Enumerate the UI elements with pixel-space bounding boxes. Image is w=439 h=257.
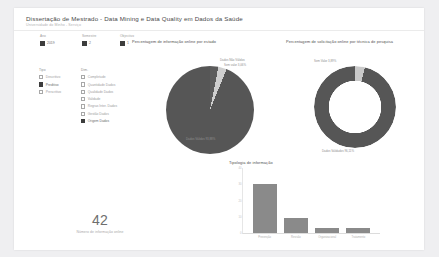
slicer-semestre-title: Semestre [82,34,96,38]
filter-tipo-item-label: Prescritivo [46,90,61,94]
donut-label-sem-valor: Sem Valor 3,89% [314,59,336,63]
checkbox-icon[interactable] [81,104,85,108]
kpi-caption: Número de informação online [40,230,160,234]
report-canvas: Dissertação de Mestrado - Data Mining e … [0,0,439,257]
filter-dimensao-item[interactable]: Qualidade Dados [81,90,117,94]
slicer-objectivo-title: Objectivo [120,34,134,38]
pie-label-sem-valor: Sem valor 3,06% [224,63,246,67]
page-title: Dissertação de Mestrado - Data Mining e … [26,15,243,22]
checkbox-icon[interactable] [39,82,43,86]
donut-label-dados-validados: Dados Validados 96,11% [322,149,354,153]
filter-dimensao-title: Dim. [81,68,117,72]
filter-tipo-item-label: Descritivo [46,75,60,79]
filter-dimensao-item-label: Qualidade Dados [88,90,113,94]
header-divider [14,30,424,31]
slicer-ano[interactable]: Ano 2019 [40,34,55,46]
bar-rect [253,184,277,233]
bar-rect [346,228,370,233]
bar-ytick: 20 [239,199,242,202]
filter-dimensao-item[interactable]: Quantidade Dados [81,82,117,86]
bar-rect [284,218,308,233]
bar-ytick: 40 [239,167,242,170]
bar-chart-title: Tipologia de informação [229,160,273,165]
bar-rect [315,228,339,233]
pie-label-dados-nao-validos: Dados Não Válidos [220,58,245,62]
slicer-semestre-checkbox[interactable] [82,41,87,46]
filter-dimensao-item[interactable]: Gestão Dados [81,112,117,116]
checkbox-icon[interactable] [81,112,85,116]
filter-dimensao-item[interactable]: Validade [81,97,117,101]
donut-chart-slices [314,66,396,148]
pie-label-dados-validos: Dados Válidos 93,88% [186,137,215,141]
checkbox-icon[interactable] [81,90,85,94]
filter-group-dimensao[interactable]: Dim. Completude Quantidade Dados Qualida… [81,68,117,126]
filter-dimensao-item[interactable]: Completude [81,75,117,79]
checkbox-icon[interactable] [81,119,85,123]
slicer-objectivo-value: 1 [127,41,129,45]
filter-dimensao-item-label: Gestão Dados [88,112,109,116]
slicer-ano-title: Ano [40,34,55,38]
kpi-value: 42 [40,213,160,227]
report-page: Dissertação de Mestrado - Data Mining e … [14,8,424,250]
checkbox-icon[interactable] [81,97,85,101]
bar-ytick: 0 [240,232,242,235]
bar-chart-plot-area: 40 30 20 10 0 Prevenção Revisão [242,168,380,234]
slicer-ano-checkbox[interactable] [40,41,45,46]
donut-chart-title: Percentagem de solicitação online por té… [286,39,393,44]
filter-dimensao-item-label: Regras Inter. Dados [88,104,117,108]
filter-group-tipo[interactable]: Tipo Descritivo Preditivo Prescritivo [39,68,61,97]
bar-ytick: 30 [239,183,242,186]
filter-tipo-title: Tipo [39,68,61,72]
bar-item[interactable]: Prevenção [253,168,277,233]
bar-chart[interactable]: 40 30 20 10 0 Prevenção Revisão [224,166,382,248]
bar-category-label: Organizacional [318,236,336,239]
bar-category-label: Prevenção [258,236,271,239]
checkbox-icon[interactable] [39,90,43,94]
filter-dimensao-item-label: Validade [88,97,101,101]
filter-tipo-item[interactable]: Descritivo [39,75,61,79]
slicer-ano-value: 2019 [47,41,55,45]
filter-dimensao-item[interactable]: Regras Inter. Dados [81,104,117,108]
slicer-objectivo-checkbox[interactable] [120,41,125,46]
pie-chart-title: Percentagem de informação online por est… [132,39,216,44]
bar-item[interactable]: Organizacional [315,168,339,233]
filter-dimensao-item[interactable]: Origem Dados [81,119,117,123]
bar-item[interactable]: Revisão [284,168,308,233]
checkbox-icon[interactable] [81,82,85,86]
bar-category-label: Revisão [291,236,301,239]
bar-category-label: Tratamento [352,236,366,239]
kpi-card: 42 Número de informação online [40,213,160,234]
checkbox-icon[interactable] [81,75,85,79]
filter-tipo-item-label: Preditivo [46,83,59,87]
filter-tipo-item[interactable]: Prescritivo [39,90,61,94]
slicer-semestre[interactable]: Semestre 2 [82,34,96,46]
filter-dimensao-item-label: Quantidade Dados [88,83,116,87]
slicer-semestre-value: 2 [89,41,91,45]
filter-dimensao-item-label: Completude [88,75,106,79]
donut-chart[interactable] [314,66,396,148]
checkbox-icon[interactable] [39,75,43,79]
filter-dimensao-item-label: Origem Dados [88,119,109,123]
page-subtitle: Universidade do Minho - Serviço [26,23,81,27]
filter-tipo-item[interactable]: Preditivo [39,82,61,86]
bar-item[interactable]: Tratamento [346,168,370,233]
bar-ytick: 10 [239,215,242,218]
